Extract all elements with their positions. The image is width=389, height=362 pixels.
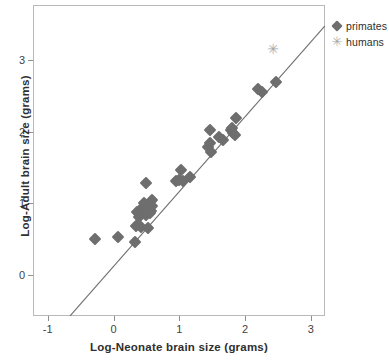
diamond-marker-icon — [331, 20, 343, 32]
x-tick-mark — [179, 316, 180, 321]
x-tick-label: 0 — [110, 324, 116, 335]
x-tick-label: 1 — [176, 324, 182, 335]
legend-label-primates: primates — [346, 20, 387, 32]
legend-item-humans[interactable]: ✳ humans — [331, 36, 389, 48]
x-tick-mark — [48, 316, 49, 321]
y-axis-title: Log-Adult brain size (grams) — [19, 16, 31, 296]
asterisk-marker-icon: ✳ — [331, 36, 343, 48]
chart-legend: primates ✳ humans — [331, 20, 389, 52]
legend-item-primates[interactable]: primates — [331, 20, 389, 32]
data-point-humans: ✳ — [267, 44, 278, 55]
plot-area — [33, 5, 325, 316]
x-tick-mark — [311, 316, 312, 321]
x-tick-label: 3 — [308, 324, 314, 335]
x-tick-mark — [245, 316, 246, 321]
x-tick-label: 2 — [242, 324, 248, 335]
scatter-chart-figure: -101230123 ✳ Log-Neonate brain size (gra… — [0, 0, 389, 362]
x-tick-label: -1 — [43, 324, 53, 335]
legend-label-humans: humans — [346, 36, 384, 48]
x-axis-title: Log-Neonate brain size (grams) — [0, 341, 358, 353]
asterisk-glyph: ✳ — [332, 36, 343, 48]
x-tick-mark — [114, 316, 115, 321]
